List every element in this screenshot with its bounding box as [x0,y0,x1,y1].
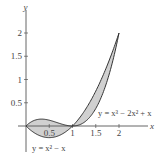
x-tick-label-1.5: 1.5 [90,128,102,138]
y-axis-label: y [23,2,28,12]
y-tick-label-1: 1 [18,75,23,85]
quadratic-curve-label: y = x² − x [32,143,66,153]
y-tick-label-0.5: 0.5 [11,98,23,108]
y-tick-label-2: 2 [18,28,23,38]
x-tick-label-2: 2 [117,128,122,138]
x-tick-label-0.5: 0.5 [44,128,56,138]
x-axis-label: x [149,121,154,131]
cubic-curve-label: y = x³ − 2x² + x [98,108,152,118]
x-tick-label-1: 1 [70,128,75,138]
y-tick-label-1.5: 1.5 [11,51,23,61]
area-between-curves-plot: 0.5 1 1.5 2 0.5 1 1.5 2 x y y = x³ − 2x²… [0,0,160,160]
shaded-region [26,33,119,138]
